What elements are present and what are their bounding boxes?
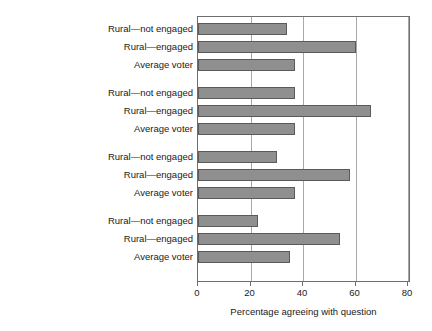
bar-chart: Rural—not engagedRural—engagedAverage vo… xyxy=(0,0,432,331)
x-axis-title: Percentage agreeing with question xyxy=(197,306,410,317)
series-label: Rural—engaged xyxy=(124,41,193,52)
x-tick-label: 20 xyxy=(244,287,255,298)
x-tick-mark xyxy=(302,282,303,286)
x-tick-mark xyxy=(407,282,408,286)
x-tick-mark xyxy=(197,282,198,286)
bar xyxy=(198,233,340,245)
y-axis-labels: Rural—not engagedRural—engagedAverage vo… xyxy=(0,0,195,331)
x-tick-label: 0 xyxy=(194,287,199,298)
bar xyxy=(198,151,277,163)
bar xyxy=(198,41,356,53)
series-label: Rural—not engaged xyxy=(108,151,193,162)
bar xyxy=(198,215,258,227)
x-tick-mark xyxy=(250,282,251,286)
plot-area xyxy=(197,16,410,282)
x-tick-label: 80 xyxy=(402,287,413,298)
bar xyxy=(198,169,350,181)
gridline-80 xyxy=(408,17,409,281)
series-label: Average voter xyxy=(134,251,193,262)
series-label: Rural—not engaged xyxy=(108,23,193,34)
series-label: Rural—engaged xyxy=(124,169,193,180)
bar xyxy=(198,105,371,117)
series-label: Rural—engaged xyxy=(124,233,193,244)
bar xyxy=(198,123,295,135)
series-label: Average voter xyxy=(134,123,193,134)
series-label: Rural—not engaged xyxy=(108,87,193,98)
series-label: Rural—engaged xyxy=(124,105,193,116)
bar xyxy=(198,87,295,99)
series-label: Average voter xyxy=(134,187,193,198)
bar xyxy=(198,187,295,199)
gridline-60 xyxy=(356,17,357,281)
bar xyxy=(198,23,287,35)
x-tick-mark xyxy=(355,282,356,286)
bar xyxy=(198,251,290,263)
series-label: Rural—not engaged xyxy=(108,215,193,226)
x-tick-label: 40 xyxy=(297,287,308,298)
bar xyxy=(198,59,295,71)
series-label: Average voter xyxy=(134,59,193,70)
x-tick-label: 60 xyxy=(349,287,360,298)
